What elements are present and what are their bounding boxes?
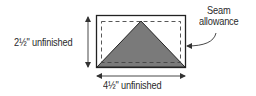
seam-allowance-callout: Seam allowance — [199, 5, 239, 27]
height-label: 2½" unfinished — [14, 36, 72, 48]
callout-line-2: allowance — [199, 16, 239, 27]
width-label: 4½" unfinished — [103, 79, 161, 91]
callout-leader-arrow — [187, 33, 216, 46]
